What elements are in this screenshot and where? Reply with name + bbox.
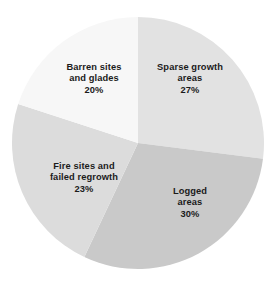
pie-chart-canvas bbox=[0, 0, 280, 289]
pie-slice-group bbox=[12, 17, 264, 269]
pie-chart: Sparse growth areas 27% Barren sites and… bbox=[0, 0, 280, 289]
pie-slice-sparse-growth-areas bbox=[138, 17, 264, 159]
